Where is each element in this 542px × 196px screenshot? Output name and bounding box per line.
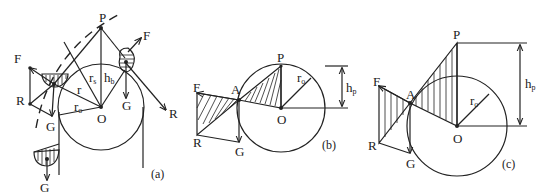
caption-c: (c) — [502, 157, 515, 171]
label-o-b: O — [277, 112, 286, 127]
label-g-left: G — [46, 119, 55, 134]
label-f-left: F — [14, 51, 21, 66]
force-r-left — [30, 84, 54, 104]
caption-a: (a) — [151, 167, 164, 181]
label-g-b: G — [235, 144, 244, 159]
diagram-canvas: P O F F R R G G G rs r ro hb (a) — [0, 0, 542, 196]
label-f-c: F — [373, 74, 380, 89]
hatch-right-b — [245, 69, 281, 106]
label-p: P — [99, 10, 106, 25]
label-r-left: R — [16, 93, 25, 108]
line-ro-b — [281, 78, 311, 108]
bucket-right — [119, 48, 134, 72]
label-f-right: F — [143, 28, 150, 43]
hatch-right-c — [416, 50, 452, 123]
label-g-right: G — [122, 98, 131, 113]
label-a-b: A — [231, 82, 241, 97]
force-f-right — [128, 38, 141, 52]
label-rs: rs — [89, 70, 96, 86]
line-p-bucket-left — [54, 28, 101, 84]
label-p-b: P — [277, 50, 284, 65]
label-a-c: A — [406, 87, 416, 102]
line-p-bucket-right — [101, 28, 125, 58]
label-o: O — [97, 111, 106, 126]
label-ro-b: ro — [297, 70, 305, 86]
parallelogram-bottom-c — [379, 143, 409, 153]
label-g-bottom: G — [40, 180, 49, 195]
force-f-left — [30, 68, 54, 84]
caption-b: (b) — [322, 138, 336, 152]
panel-c: P O A F R G ro hp (c) — [368, 27, 536, 176]
label-hp-c: hp — [525, 76, 536, 92]
label-o-c: O — [453, 131, 462, 146]
force-diagram-figure: P O F F R R G G G rs r ro hb (a) — [0, 0, 542, 196]
label-r-c: R — [368, 138, 377, 153]
label-ro: ro — [74, 99, 82, 115]
label-r: r — [77, 82, 82, 97]
parallelogram-bottom-b — [197, 135, 238, 142]
label-f-b: F — [193, 80, 200, 95]
label-r-right: R — [169, 106, 178, 121]
panel-a: P O F F R R G G G rs r ro hb (a) — [14, 10, 178, 195]
hatch-left-c — [385, 89, 403, 137]
panel-b: P O A F R G ro hp (b) — [193, 50, 357, 159]
label-hb: hb — [104, 70, 115, 86]
label-ro-c: ro — [470, 93, 478, 109]
label-hp-b: hp — [346, 80, 357, 96]
force-g-left — [52, 84, 54, 116]
hatched-triangle-right-c — [410, 43, 457, 126]
label-r-b: R — [193, 135, 202, 150]
line-rs — [64, 42, 101, 107]
label-g-c: G — [406, 156, 415, 171]
label-p-c: P — [453, 27, 460, 42]
